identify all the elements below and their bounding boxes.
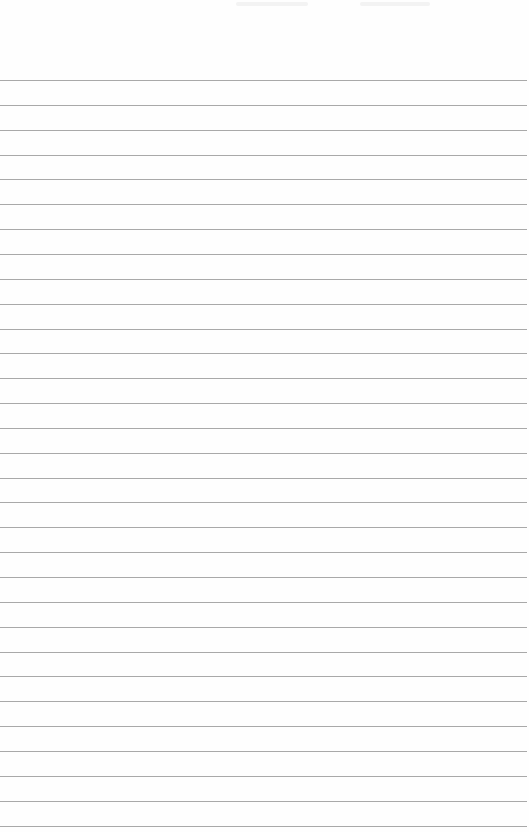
ruled-line	[0, 751, 527, 752]
ruled-line	[0, 726, 527, 727]
ruled-line	[0, 652, 527, 653]
ruled-line	[0, 701, 527, 702]
ruled-line	[0, 279, 527, 280]
ruled-line	[0, 204, 527, 205]
ruled-line	[0, 105, 527, 106]
ruled-line	[0, 229, 527, 230]
ruled-line	[0, 80, 527, 81]
ruled-line	[0, 304, 527, 305]
ruled-line	[0, 577, 527, 578]
ruled-line	[0, 552, 527, 553]
ruled-line	[0, 179, 527, 180]
ruled-line	[0, 676, 527, 677]
ruled-line	[0, 801, 527, 802]
ruled-line	[0, 478, 527, 479]
ruled-line	[0, 378, 527, 379]
ruled-line	[0, 403, 527, 404]
ruled-line	[0, 502, 527, 503]
ruled-line	[0, 453, 527, 454]
ruled-line	[0, 329, 527, 330]
ruled-line	[0, 527, 527, 528]
ruled-line	[0, 826, 527, 827]
ruled-line	[0, 155, 527, 156]
ruled-line	[0, 254, 527, 255]
notepaper-page	[0, 0, 529, 832]
ruled-line	[0, 130, 527, 131]
ruled-line	[0, 353, 527, 354]
ruled-line	[0, 602, 527, 603]
ruled-line	[0, 627, 527, 628]
scan-artifact	[236, 2, 308, 6]
ruled-line	[0, 776, 527, 777]
scan-artifact	[360, 2, 430, 6]
ruled-line	[0, 428, 527, 429]
